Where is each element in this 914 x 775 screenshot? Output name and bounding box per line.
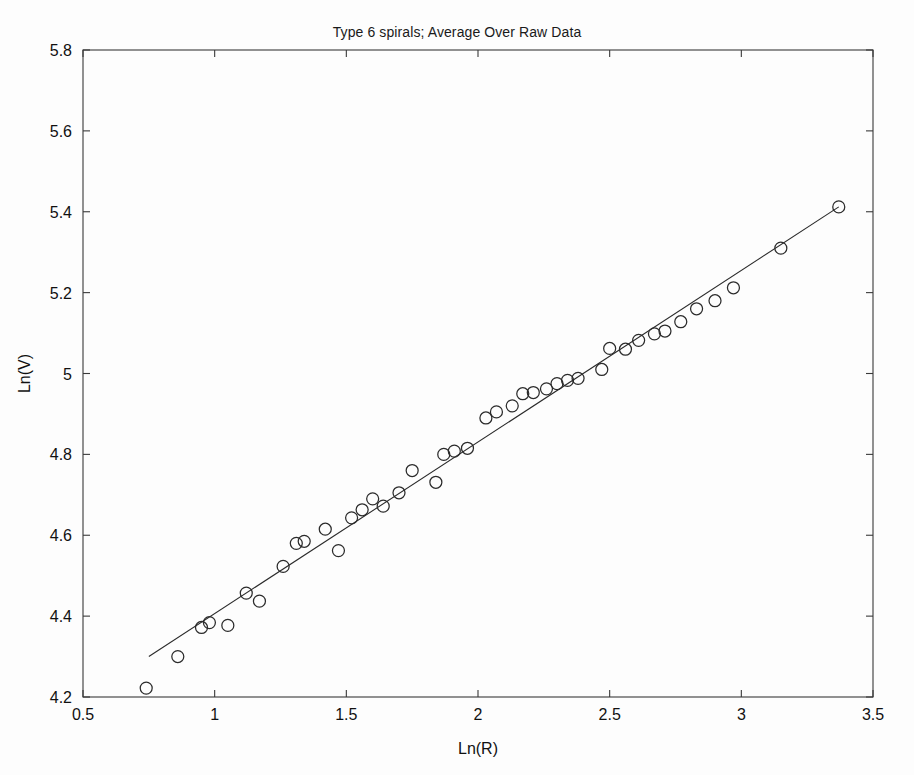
data-point: [393, 487, 405, 499]
y-tick-label: 4.4: [50, 608, 72, 625]
data-point: [172, 651, 184, 663]
x-tick-label: 1: [210, 706, 219, 723]
data-point: [253, 595, 265, 607]
data-point: [691, 303, 703, 315]
data-point: [675, 316, 687, 328]
data-point: [406, 465, 418, 477]
y-tick-label: 5: [63, 366, 72, 383]
data-point: [604, 342, 616, 354]
data-point: [356, 504, 368, 516]
data-point-markers: [140, 201, 845, 694]
data-point: [709, 295, 721, 307]
x-tick-label: 3: [737, 706, 746, 723]
data-point: [448, 445, 460, 457]
data-point: [367, 493, 379, 505]
linear-fit-line: [149, 207, 839, 657]
figure-canvas: Type 6 spirals; Average Over Raw Data 0.…: [0, 0, 914, 775]
x-tick-label: 0.5: [72, 706, 94, 723]
data-point: [775, 242, 787, 254]
data-point: [319, 523, 331, 535]
data-point: [222, 619, 234, 631]
y-tick-label: 4.2: [50, 689, 72, 706]
x-axis-ticks: 0.511.522.533.5: [72, 50, 884, 723]
data-point: [596, 363, 608, 375]
y-tick-label: 5.2: [50, 285, 72, 302]
axes-frame: [83, 50, 873, 697]
fit-line: [149, 207, 839, 657]
x-tick-label: 3.5: [862, 706, 884, 723]
data-point: [490, 406, 502, 418]
data-point: [659, 325, 671, 337]
x-tick-label: 2.5: [599, 706, 621, 723]
y-axis-label: Ln(V): [16, 354, 33, 393]
y-tick-label: 5.8: [50, 42, 72, 59]
x-tick-label: 2: [474, 706, 483, 723]
data-point: [298, 535, 310, 547]
x-axis-label: Ln(R): [458, 740, 498, 757]
data-point: [506, 400, 518, 412]
data-point: [346, 512, 358, 524]
x-tick-label: 1.5: [335, 706, 357, 723]
data-point: [572, 372, 584, 384]
data-point: [140, 682, 152, 694]
data-point: [290, 537, 302, 549]
data-point: [727, 282, 739, 294]
scatter-plot: 0.511.522.533.5 4.24.44.64.855.25.45.65.…: [0, 0, 914, 775]
y-tick-label: 4.8: [50, 446, 72, 463]
data-point: [430, 476, 442, 488]
y-tick-label: 5.6: [50, 123, 72, 140]
data-point: [332, 545, 344, 557]
y-tick-label: 5.4: [50, 204, 72, 221]
y-tick-label: 4.6: [50, 527, 72, 544]
y-axis-ticks: 4.24.44.64.855.25.45.65.8: [50, 42, 873, 706]
